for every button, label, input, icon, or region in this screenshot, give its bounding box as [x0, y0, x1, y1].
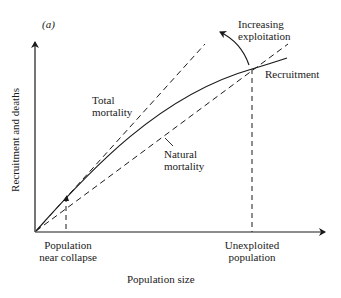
unexploited-label-line2: population [222, 251, 282, 263]
unexploited-label: Unexploited population [222, 239, 282, 263]
x-axis-label: Population size [127, 273, 195, 285]
total-mortality-label-line2: mortality [92, 106, 132, 118]
recruitment-curve [36, 58, 287, 231]
increasing-exploitation-label-line2: exploitation [238, 30, 291, 42]
near-collapse-label: Population near collapse [38, 239, 98, 263]
unexploited-label-line1: Unexploited [222, 239, 282, 251]
increasing-exploitation-label-line1: Increasing [238, 18, 291, 30]
near-collapse-label-line2: near collapse [38, 251, 98, 263]
panel-label: (a) [42, 18, 55, 30]
near-collapse-label-line1: Population [38, 239, 98, 251]
natural-mortality-label-line1: Natural [164, 148, 204, 160]
y-axis-label: Recruitment and deaths [9, 88, 21, 192]
natural-mortality-label: Natural mortality [164, 148, 204, 172]
recruitment-label: Recruitment [265, 68, 319, 80]
increasing-exploitation-label: Increasing exploitation [238, 18, 291, 42]
natural-mortality-line [36, 44, 288, 231]
total-mortality-label-line1: Total [92, 94, 132, 106]
total-mortality-label: Total mortality [92, 94, 132, 118]
natural-mortality-label-line2: mortality [164, 160, 204, 172]
natural-mortality-leader [165, 138, 173, 146]
